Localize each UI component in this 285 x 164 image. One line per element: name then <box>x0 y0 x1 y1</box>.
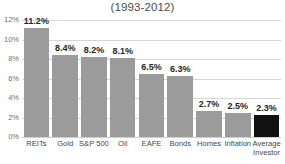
bar <box>254 115 280 137</box>
bar-value-label: 6.3% <box>163 65 197 74</box>
bar <box>225 113 251 137</box>
x-axis-category-label-line: Oil <box>118 139 127 148</box>
bar-chart: (1993-2012) 0%2%4%6%8%10%12% 11.2%REITs8… <box>0 0 285 164</box>
bar-value-label: 8.1% <box>106 47 140 56</box>
bar-value-label: 11.2% <box>20 17 54 26</box>
x-axis-category-label-line: Investor <box>250 148 284 157</box>
chart-title: (1993-2012) <box>0 1 285 13</box>
y-axis-tick-label: 12% <box>4 16 19 24</box>
bar <box>196 111 222 137</box>
gridline <box>22 137 281 138</box>
y-axis-tick-label: 6% <box>8 75 19 83</box>
y-axis-tick-label: 10% <box>4 36 19 44</box>
x-axis-category-label-line: Bonds <box>169 139 191 148</box>
gridline <box>22 40 281 41</box>
x-axis-category-label-line: S&P 500 <box>79 139 109 148</box>
x-axis-category-label-line: Average <box>253 139 281 148</box>
y-axis-tick-label: 4% <box>8 94 19 102</box>
y-axis-tick-label: 2% <box>8 114 19 122</box>
bar <box>167 76 193 137</box>
y-axis: 0%2%4%6%8%10%12% <box>0 20 22 137</box>
x-axis-category-label-line: Homes <box>197 139 221 148</box>
y-axis-tick-label: 8% <box>8 55 19 63</box>
bar <box>81 57 107 137</box>
gridline <box>22 20 281 21</box>
x-axis-category-label-line: EAFE <box>142 139 162 148</box>
y-axis-tick-label: 0% <box>8 133 19 141</box>
x-axis-category-label-line: REITs <box>26 139 46 148</box>
bar <box>24 28 50 137</box>
bar <box>52 55 78 137</box>
x-axis-category-label-line: Gold <box>57 139 73 148</box>
bar <box>139 74 165 137</box>
bar <box>110 58 136 137</box>
bar-value-label: 2.3% <box>250 104 284 113</box>
x-axis-category-label: AverageInvestor <box>250 139 284 157</box>
x-axis-category-label-line: Inflation <box>225 139 252 148</box>
plot-area <box>22 20 281 137</box>
